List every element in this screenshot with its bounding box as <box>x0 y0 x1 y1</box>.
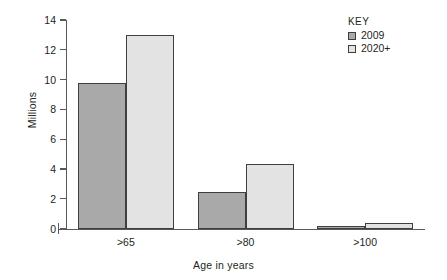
legend-title: KEY <box>348 16 391 27</box>
bar <box>365 223 413 229</box>
legend-item-label: 2020+ <box>361 43 391 54</box>
legend-swatch-icon <box>348 32 356 40</box>
legend-entries: 20092020+ <box>348 30 391 54</box>
legend-item-label: 2009 <box>361 30 384 41</box>
legend: KEY 20092020+ <box>348 16 391 56</box>
x-axis-title: Age in years <box>0 259 447 271</box>
bar-chart: Millions 02468101214 >65>80>100 Age in y… <box>0 0 447 280</box>
bar <box>126 35 174 229</box>
bar <box>317 226 365 228</box>
x-axis-category-label: >100 <box>353 236 377 248</box>
legend-item: 2020+ <box>348 43 391 54</box>
x-axis-category-label: >65 <box>117 236 135 248</box>
legend-item: 2009 <box>348 30 391 41</box>
bar <box>78 83 126 228</box>
x-axis-category-label: >80 <box>237 236 255 248</box>
bar <box>198 192 246 228</box>
bar <box>246 164 294 229</box>
x-axis-line <box>58 229 425 230</box>
x-axis-origin-tick <box>58 223 59 234</box>
legend-swatch-icon <box>348 45 356 53</box>
